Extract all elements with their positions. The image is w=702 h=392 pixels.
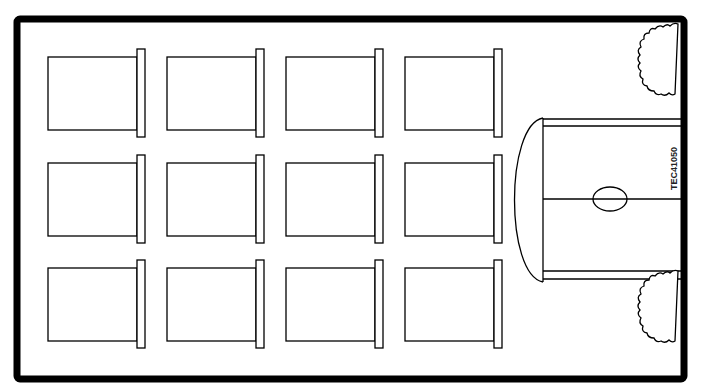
- chair: [137, 49, 145, 137]
- desk-top: [167, 268, 256, 341]
- student-desk: [167, 260, 264, 348]
- chair: [375, 260, 383, 348]
- student-desk: [405, 155, 502, 243]
- student-desk: [48, 155, 145, 243]
- student-desk: [48, 260, 145, 348]
- desk-top: [405, 57, 494, 130]
- desk-top: [405, 268, 494, 341]
- student-desk: [167, 155, 264, 243]
- desk-top: [286, 268, 375, 341]
- chair: [137, 155, 145, 243]
- chair: [494, 49, 502, 137]
- teacher-table: [515, 118, 682, 282]
- student-desk: [286, 155, 383, 243]
- tree-icon-bottom: [638, 270, 678, 342]
- desk-top: [286, 163, 375, 236]
- classroom-diagram: [0, 0, 702, 392]
- chair: [256, 260, 264, 348]
- chair: [375, 155, 383, 243]
- student-desk: [167, 49, 264, 137]
- desk-grid: [48, 49, 502, 348]
- chair: [137, 260, 145, 348]
- student-desk: [286, 260, 383, 348]
- desk-top: [48, 57, 137, 130]
- student-desk: [405, 260, 502, 348]
- chair: [256, 155, 264, 243]
- chair: [494, 155, 502, 243]
- chair: [494, 260, 502, 348]
- student-desk: [286, 49, 383, 137]
- figure-code-label: TEC41050: [669, 147, 679, 190]
- desk-top: [405, 163, 494, 236]
- desk-top: [167, 163, 256, 236]
- desk-top: [48, 268, 137, 341]
- chair: [375, 49, 383, 137]
- desk-top: [48, 163, 137, 236]
- teacher-table-rounded-front: [515, 118, 544, 282]
- desk-top: [286, 57, 375, 130]
- tree-icon-top: [638, 23, 678, 95]
- chair: [256, 49, 264, 137]
- student-desk: [48, 49, 145, 137]
- desk-top: [167, 57, 256, 130]
- student-desk: [405, 49, 502, 137]
